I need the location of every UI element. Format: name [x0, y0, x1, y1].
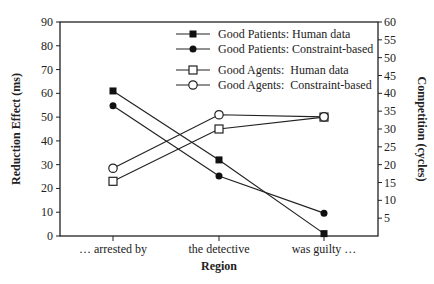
y2-tick-label: 60: [384, 15, 396, 29]
y2-axis-label: Competition (cycles): [415, 77, 429, 182]
y-tick-label: 20: [41, 181, 53, 195]
filled-square-marker-icon: [321, 230, 328, 237]
x-tick-label: was guilty …: [292, 242, 357, 256]
y-tick-label: 50: [41, 110, 53, 124]
y-tick-label: 90: [41, 15, 53, 29]
y-axis-label: Reduction Effect (ms): [9, 73, 23, 185]
open-square-marker-icon: [215, 125, 223, 133]
y2-tick-label: 15: [384, 176, 396, 190]
legend-entry: Good Agents: Constraint-based: [218, 78, 372, 92]
open-circle-marker-icon: [215, 111, 223, 119]
open-square-marker-icon: [189, 66, 197, 74]
y2-tick-label: 5: [384, 211, 390, 225]
filled-square-marker-icon: [216, 156, 223, 163]
filled-square-marker-icon: [110, 87, 117, 94]
series-line: [110, 87, 328, 237]
filled-circle-marker-icon: [321, 210, 328, 217]
y-tick-label: 30: [41, 158, 53, 172]
x-tick-label: … arrested by: [79, 242, 147, 256]
y2-tick-label: 45: [384, 69, 396, 83]
y2-tick-label: 25: [384, 140, 396, 154]
open-circle-marker-icon: [189, 81, 197, 89]
y-tick-label: 40: [41, 134, 53, 148]
y-tick-label: 60: [41, 86, 53, 100]
legend: Good Patients: Human dataGood Patients: …: [176, 27, 373, 92]
legend-entry: Good Agents: Human data: [218, 63, 349, 77]
y2-tick-label: 30: [384, 122, 396, 136]
open-circle-marker-icon: [320, 113, 328, 121]
open-circle-marker-icon: [109, 164, 117, 172]
filled-square-marker-icon: [190, 31, 197, 38]
open-square-marker-icon: [109, 177, 117, 185]
x-axis-label: Region: [201, 259, 237, 273]
legend-entry: Good Patients: Human data: [218, 27, 351, 41]
y-tick-label: 70: [41, 63, 53, 77]
legend-entry: Good Patients: Constraint-based: [218, 42, 373, 56]
filled-circle-marker-icon: [216, 173, 223, 180]
line-chart: 0102030405060708090510152025303540455055…: [0, 0, 434, 284]
y2-tick-label: 35: [384, 104, 396, 118]
y-tick-label: 10: [41, 205, 53, 219]
y2-tick-label: 55: [384, 33, 396, 47]
y-tick-label: 0: [47, 229, 53, 243]
filled-circle-marker-icon: [110, 102, 117, 109]
x-tick-label: the detective: [189, 242, 250, 256]
y2-tick-label: 50: [384, 51, 396, 65]
filled-circle-marker-icon: [190, 46, 197, 53]
y-tick-label: 80: [41, 39, 53, 53]
y2-tick-label: 40: [384, 86, 396, 100]
y2-tick-label: 10: [384, 193, 396, 207]
y2-tick-label: 20: [384, 158, 396, 172]
